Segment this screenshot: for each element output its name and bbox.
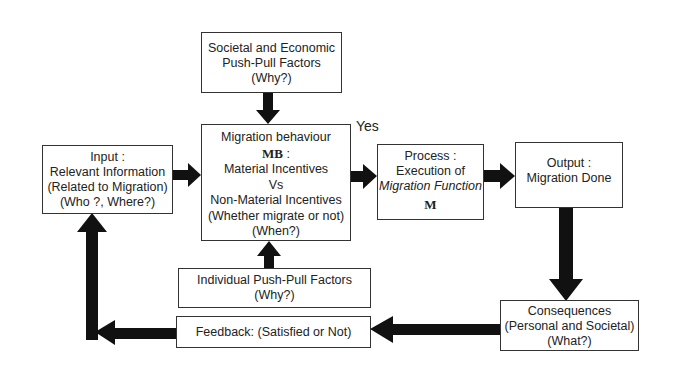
consequences-box: Consequences (Personal and Societal) (Wh…	[500, 300, 639, 351]
process-box: Process : Execution of Migration Functio…	[377, 144, 484, 220]
individual-factors-box: Individual Push-Pull Factors (Why?)	[178, 268, 371, 308]
input-line-3: (Related to Migration)	[47, 180, 167, 195]
yes-label: Yes	[356, 118, 379, 134]
output-line-2: Migration Done	[527, 171, 612, 186]
arrow-consequences-to-feedback	[370, 316, 500, 343]
societal-line-2: Push-Pull Factors	[222, 56, 321, 71]
societal-economic-factors-box: Societal and Economic Push-Pull Factors …	[201, 32, 342, 93]
individual-line-2: (Why?)	[254, 288, 294, 303]
arrow-individual-to-migration	[257, 241, 281, 268]
societal-line-1: Societal and Economic	[208, 41, 335, 56]
arrow-migration-to-process	[350, 164, 377, 189]
output-box: Output : Migration Done	[515, 142, 623, 208]
arrow-feedback-to-input	[77, 213, 176, 345]
mb-colon: :	[283, 147, 290, 161]
migration-line-4: (Whether migrate or not)	[208, 209, 344, 225]
arrow-output-to-consequences	[549, 207, 583, 301]
arrow-input-to-migration	[172, 163, 201, 187]
migration-line-5: (When?)	[252, 224, 300, 240]
consequences-line-3: (What?)	[547, 334, 591, 349]
consequences-line-2: (Personal and Societal)	[505, 319, 635, 334]
migration-line-1: Material Incentives	[224, 162, 328, 178]
arrow-process-to-output	[483, 163, 515, 189]
migration-behaviour-box: Migration behaviour MB : Material Incent…	[201, 124, 351, 241]
input-box: Input : Relevant Information (Related to…	[42, 145, 173, 214]
migration-line-3: Non-Material Incentives	[210, 193, 341, 209]
input-line-2: Relevant Information	[50, 165, 165, 180]
migration-title: Migration behaviour	[221, 130, 331, 146]
feedback-label: Feedback: (Satisfied or Not)	[196, 325, 352, 340]
societal-line-3: (Why?)	[251, 71, 291, 86]
feedback-box: Feedback: (Satisfied or Not)	[176, 316, 371, 348]
process-line-1: Process :	[404, 149, 456, 164]
process-line-3: Migration Function	[379, 179, 482, 194]
migration-line-2: Vs	[269, 178, 284, 194]
arrow-societal-to-migration	[256, 92, 280, 124]
process-line-2: Execution of	[396, 164, 465, 179]
output-line-1: Output :	[547, 156, 591, 171]
mb-symbol-line: MB :	[262, 146, 290, 163]
mb-symbol: MB	[262, 146, 283, 161]
individual-line-1: Individual Push-Pull Factors	[197, 273, 352, 288]
consequences-line-1: Consequences	[528, 304, 611, 319]
m-symbol: M	[424, 197, 436, 212]
input-line-1: Input :	[90, 150, 125, 165]
input-line-4: (Who ?, Where?)	[60, 195, 155, 210]
